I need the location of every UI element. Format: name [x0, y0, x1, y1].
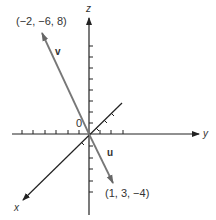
vector-v-endpoint-label: (−2, −6, 8) [16, 15, 67, 27]
vector-u-label: u [107, 147, 113, 158]
vector-v-label: v [55, 46, 61, 57]
z-axis: z [85, 3, 93, 215]
vector-u-endpoint-label: (1, 3, −4) [105, 187, 149, 199]
3d-vector-diagram: z y x 0 v (−2, −6, 8) [0, 0, 216, 220]
x-axis-label: x [13, 202, 20, 213]
y-axis-label: y [202, 128, 209, 139]
y-axis: y [12, 128, 209, 139]
z-axis-label: z [85, 3, 91, 14]
vector-u: u (1, 3, −4) [89, 134, 149, 199]
